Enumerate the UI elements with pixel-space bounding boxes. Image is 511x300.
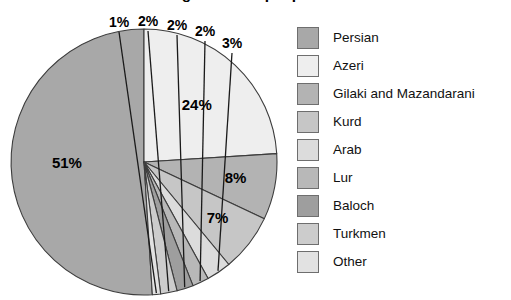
legend-item[interactable]: Lur	[293, 164, 511, 192]
slice-value-label: 24%	[182, 96, 212, 113]
legend-item[interactable]: Arab	[293, 136, 511, 164]
legend-item[interactable]: Azeri	[293, 52, 511, 80]
legend-item[interactable]: Baloch	[293, 192, 511, 220]
legend: PersianAzeriGilaki and MazandaraniKurdAr…	[293, 24, 511, 276]
pie-chart-page: What are the ethnic backgrounds of peopl…	[0, 0, 511, 300]
slice-value-label: 51%	[52, 154, 82, 171]
legend-color-swatch	[297, 195, 319, 217]
legend-item-label: Arab	[333, 143, 362, 157]
legend-item[interactable]: Persian	[293, 24, 511, 52]
slice-value-label: 1%	[109, 14, 130, 30]
legend-item-label: Gilaki and Mazandarani	[333, 87, 475, 101]
legend-color-swatch	[297, 83, 319, 105]
pie-chart-svg: 51%24%8%7%1%2%2%2%3%	[0, 0, 290, 300]
slice-value-label: 2%	[138, 13, 159, 29]
legend-color-swatch	[297, 251, 319, 273]
pie-chart: 51%24%8%7%1%2%2%2%3%	[0, 0, 290, 300]
legend-item-label: Baloch	[333, 199, 374, 213]
legend-color-swatch	[297, 27, 319, 49]
slice-value-label: 7%	[207, 209, 229, 226]
legend-item[interactable]: Gilaki and Mazandarani	[293, 80, 511, 108]
legend-color-swatch	[297, 55, 319, 77]
slice-value-label: 2%	[195, 23, 216, 39]
legend-item[interactable]: Kurd	[293, 108, 511, 136]
legend-color-swatch	[297, 167, 319, 189]
slice-value-label: 8%	[225, 169, 247, 186]
legend-color-swatch	[297, 111, 319, 133]
slice-value-label: 2%	[167, 17, 188, 33]
legend-item-label: Persian	[333, 31, 379, 45]
legend-item-label: Kurd	[333, 115, 362, 129]
legend-color-swatch	[297, 139, 319, 161]
slice-value-label: 3%	[222, 35, 243, 51]
legend-item[interactable]: Other	[293, 248, 511, 276]
legend-item-label: Lur	[333, 171, 353, 185]
legend-item-label: Azeri	[333, 59, 364, 73]
legend-item[interactable]: Turkmen	[293, 220, 511, 248]
legend-item-label: Turkmen	[333, 227, 386, 241]
legend-item-label: Other	[333, 255, 367, 269]
legend-color-swatch	[297, 223, 319, 245]
